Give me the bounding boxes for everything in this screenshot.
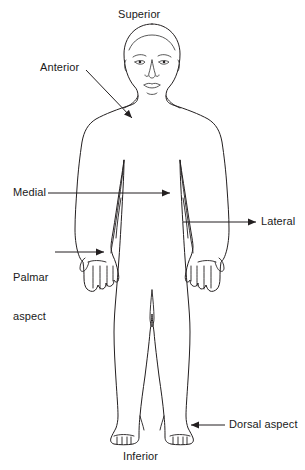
label-anterior: Anterior [40,61,79,74]
label-palmar-line-2: aspect [13,310,48,323]
label-palmar-aspect: Palmar aspect [13,245,48,349]
label-lateral: Lateral [261,215,295,228]
anterior-leader-arrow [86,70,132,118]
label-palmar-line-1: Palmar [13,271,48,284]
anatomy-diagram: Superior Anterior Medial Lateral Palmar … [0,0,305,470]
label-dorsal-aspect: Dorsal aspect [229,418,298,431]
label-superior: Superior [118,8,160,21]
label-inferior: Inferior [123,450,158,463]
body-silhouette [75,24,229,445]
label-medial: Medial [13,186,46,199]
